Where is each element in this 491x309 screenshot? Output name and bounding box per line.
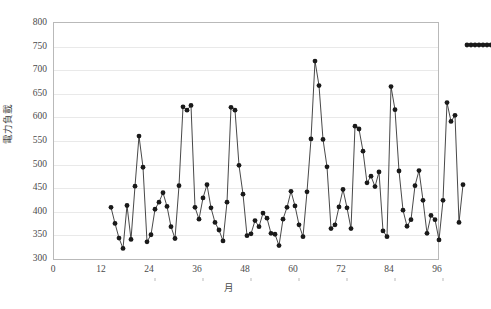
data-point xyxy=(117,236,122,241)
data-point xyxy=(377,170,382,175)
data-point xyxy=(125,203,130,208)
data-point xyxy=(381,229,386,234)
data-point xyxy=(405,224,410,229)
data-point xyxy=(313,59,318,64)
data-point xyxy=(205,182,210,187)
y-axis-title: 電力負載 xyxy=(3,94,14,154)
data-point xyxy=(269,231,274,236)
data-point xyxy=(317,83,322,88)
data-point xyxy=(365,180,370,185)
data-point xyxy=(429,213,434,218)
data-point xyxy=(189,103,194,108)
data-point xyxy=(445,100,450,105)
data-point xyxy=(197,217,202,222)
data-point xyxy=(193,205,198,210)
data-point xyxy=(329,226,334,231)
data-point xyxy=(257,224,262,229)
data-point xyxy=(141,165,146,170)
data-point xyxy=(265,216,270,221)
data-point xyxy=(341,187,346,192)
data-point xyxy=(209,205,214,210)
data-point xyxy=(181,104,186,109)
data-point xyxy=(437,238,442,243)
plot-area xyxy=(53,22,439,260)
data-point xyxy=(357,127,362,132)
data-point xyxy=(301,234,306,239)
data-point xyxy=(145,239,150,244)
data-point xyxy=(453,113,458,118)
data-point xyxy=(129,237,134,242)
data-point xyxy=(385,234,390,239)
data-point xyxy=(337,205,342,210)
data-point xyxy=(305,189,310,194)
data-point xyxy=(373,184,378,189)
data-point xyxy=(457,220,462,225)
data-point xyxy=(249,231,254,236)
data-point xyxy=(461,182,466,187)
x-axis-title: 月 xyxy=(0,283,458,294)
y-axis-tick-label: 500 xyxy=(5,159,47,169)
data-point xyxy=(237,163,242,168)
data-point xyxy=(229,105,234,110)
data-point xyxy=(153,207,158,212)
data-point xyxy=(133,184,138,189)
data-point xyxy=(233,108,238,113)
data-point xyxy=(325,164,330,169)
data-point xyxy=(273,232,278,237)
data-point xyxy=(417,168,422,173)
data-point xyxy=(217,228,222,233)
data-point xyxy=(433,217,438,222)
data-point xyxy=(185,108,190,113)
data-point xyxy=(413,183,418,188)
data-point xyxy=(261,211,266,216)
data-point xyxy=(149,232,154,237)
data-point xyxy=(137,134,142,139)
data-point xyxy=(285,205,290,210)
y-axis-tick-label: 300 xyxy=(5,253,47,263)
data-point xyxy=(213,220,218,225)
data-point xyxy=(109,205,114,210)
data-point xyxy=(293,204,298,209)
data-series-line xyxy=(107,45,491,281)
data-point xyxy=(361,149,366,154)
data-point xyxy=(173,236,178,241)
data-point xyxy=(449,119,454,124)
x-axis-tick-label: 0 xyxy=(38,264,68,274)
data-point xyxy=(201,196,206,201)
data-point xyxy=(369,174,374,179)
data-point xyxy=(353,124,358,129)
data-point xyxy=(389,84,394,89)
data-point xyxy=(289,189,294,194)
data-point xyxy=(333,222,338,227)
data-point xyxy=(349,226,354,231)
data-point xyxy=(309,137,314,142)
data-point xyxy=(297,222,302,227)
y-axis-tick-label: 750 xyxy=(5,41,47,51)
data-point xyxy=(225,200,230,205)
data-point xyxy=(401,208,406,213)
y-axis-tick-label: 450 xyxy=(5,182,47,192)
data-point xyxy=(241,192,246,197)
y-axis-tick-label: 700 xyxy=(5,64,47,74)
data-point xyxy=(425,231,430,236)
y-axis-tick-label: 400 xyxy=(5,206,47,216)
data-point xyxy=(177,183,182,188)
data-point xyxy=(421,198,426,203)
y-axis-tick-label: 800 xyxy=(5,17,47,27)
data-point xyxy=(441,198,446,203)
data-point xyxy=(345,205,350,210)
data-point xyxy=(253,218,258,223)
data-point xyxy=(161,190,166,195)
data-point xyxy=(221,238,226,243)
data-point xyxy=(409,217,414,222)
data-point xyxy=(169,224,174,229)
data-point xyxy=(165,204,170,209)
data-point xyxy=(397,169,402,174)
y-axis-tick-label: 350 xyxy=(5,229,47,239)
data-point xyxy=(281,217,286,222)
data-point xyxy=(121,246,126,251)
data-point xyxy=(321,137,326,142)
data-point xyxy=(393,107,398,112)
data-point xyxy=(157,200,162,205)
